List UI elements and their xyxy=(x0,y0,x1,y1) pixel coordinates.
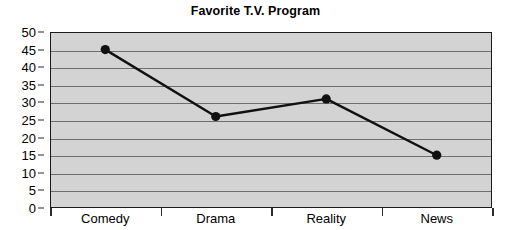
x-tick-label: News xyxy=(420,211,453,226)
y-tick-mark xyxy=(38,102,44,103)
gridline xyxy=(51,51,491,52)
y-tick-mark xyxy=(38,190,44,191)
y-tick-label: 15 xyxy=(22,149,36,162)
y-tick-mark xyxy=(38,155,44,156)
y-axis: 05101520253035404550 xyxy=(0,32,44,208)
gridline xyxy=(51,103,491,104)
gridline xyxy=(51,121,491,122)
gridline xyxy=(51,174,491,175)
gridline xyxy=(51,86,491,87)
x-tick-label: Drama xyxy=(196,211,235,226)
x-axis: ComedyDramaRealityNews xyxy=(50,211,492,230)
y-tick-label: 20 xyxy=(22,131,36,144)
y-tick-label: 50 xyxy=(22,26,36,39)
y-tick-label: 25 xyxy=(22,114,36,127)
gridline xyxy=(51,191,491,192)
plot-area xyxy=(50,32,492,208)
x-tick-label: Comedy xyxy=(81,211,129,226)
gridline xyxy=(51,139,491,140)
chart-figure: Favorite T.V. Program 051015202530354045… xyxy=(0,0,511,230)
y-tick-label: 5 xyxy=(29,184,36,197)
y-tick-mark xyxy=(38,49,44,50)
y-tick-label: 45 xyxy=(22,43,36,56)
x-tick-mark xyxy=(492,208,494,216)
y-tick-mark xyxy=(38,120,44,121)
y-tick-label: 40 xyxy=(22,61,36,74)
gridline xyxy=(51,156,491,157)
y-tick-label: 0 xyxy=(29,202,36,215)
y-tick-label: 30 xyxy=(22,96,36,109)
y-tick-mark xyxy=(38,84,44,85)
y-tick-mark xyxy=(38,32,44,33)
y-tick-mark xyxy=(38,137,44,138)
chart-title: Favorite T.V. Program xyxy=(0,4,511,18)
y-tick-mark xyxy=(38,208,44,209)
y-tick-mark xyxy=(38,172,44,173)
y-tick-mark xyxy=(38,67,44,68)
gridline xyxy=(51,68,491,69)
y-tick-label: 35 xyxy=(22,78,36,91)
x-tick-label: Reality xyxy=(306,211,346,226)
y-tick-label: 10 xyxy=(22,166,36,179)
gridlines xyxy=(51,33,491,207)
